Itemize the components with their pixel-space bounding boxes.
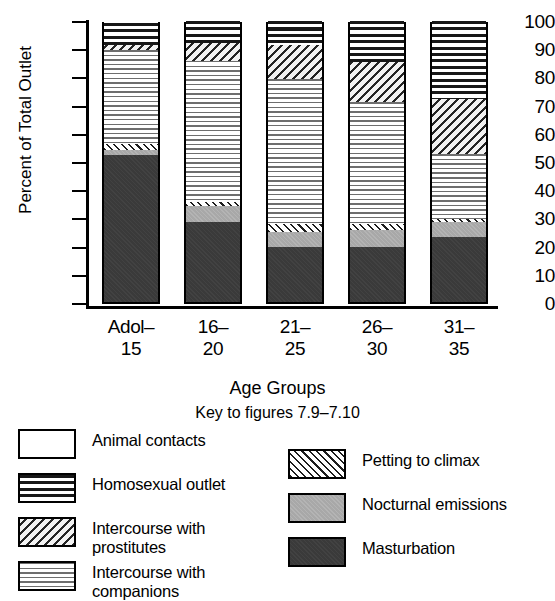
bar-segment-homosexual-outlet [186, 21, 240, 42]
plot-area [88, 22, 493, 304]
y-tick-label: 10 [491, 266, 555, 285]
y-tick-label: 70 [491, 97, 555, 116]
bar-adol-15[interactable] [102, 22, 160, 304]
bar-segment-petting-to-climax [104, 144, 158, 150]
bar-21-25[interactable] [266, 22, 324, 304]
legend-label-line: prostitutes [92, 538, 205, 557]
y-tick-mark [72, 218, 87, 220]
y-tick-mark [72, 134, 87, 136]
bar-segment-intercourse-prostitutes [432, 99, 486, 154]
bar-segment-intercourse-companions [432, 154, 486, 219]
legend-label-line: Nocturnal emissions [362, 495, 507, 514]
y-tick-label: 40 [491, 181, 555, 200]
bar-segment-petting-to-climax [268, 224, 322, 231]
bar-segment-masturbation [350, 247, 404, 302]
bar-segment-petting-to-climax [432, 219, 486, 222]
bar-segment-animal-contacts [268, 20, 322, 21]
legend-item-petting-to-climax[interactable]: Petting to climax [288, 448, 480, 479]
bar-segment-petting-to-climax [350, 224, 404, 230]
bar-26-30[interactable] [348, 22, 406, 304]
bar-segment-nocturnal-emissions [432, 222, 486, 238]
legend-label-line: Intercourse with [92, 563, 205, 582]
x-tick-label: 31–35 [411, 316, 507, 360]
y-tick-mark [72, 106, 87, 108]
bar-segment-intercourse-companions [186, 61, 240, 202]
bar-segment-intercourse-prostitutes [268, 45, 322, 79]
legend-label: Animal contacts [92, 428, 205, 450]
y-tick-label: 60 [491, 125, 555, 144]
bar-segment-petting-to-climax [186, 202, 240, 206]
y-tick-label: 30 [491, 209, 555, 228]
y-tick-mark [72, 49, 87, 51]
y-tick-mark [72, 190, 87, 192]
y-tick-label: 0 [491, 294, 555, 313]
legend: Animal contactsHomosexual outletIntercou… [0, 428, 555, 588]
key-title: Key to figures 7.9–7.10 [0, 404, 555, 422]
y-tick-mark [72, 21, 87, 23]
bar-segment-nocturnal-emissions [186, 206, 240, 222]
legend-label: Petting to climax [362, 448, 480, 470]
bar-segment-homosexual-outlet [268, 21, 322, 45]
bar-segment-intercourse-companions [104, 50, 158, 144]
bar-segment-animal-contacts [432, 20, 486, 21]
legend-label-line: Petting to climax [362, 451, 480, 470]
legend-item-intercourse-prostitutes[interactable]: Intercourse withprostitutes [18, 516, 205, 557]
legend-label-line: Intercourse with [92, 519, 205, 538]
x-axis-title: Age Groups [0, 378, 555, 399]
legend-label: Nocturnal emissions [362, 492, 507, 514]
legend-label-line: Homosexual outlet [92, 475, 225, 494]
legend-swatch-intercourse-companions [18, 561, 76, 591]
y-axis-title: Percent of Total Outlet [16, 0, 36, 260]
bar-segment-nocturnal-emissions [104, 150, 158, 156]
y-tick-label: 80 [491, 68, 555, 87]
bar-segment-masturbation [268, 247, 322, 302]
bar-segment-intercourse-prostitutes [104, 45, 158, 49]
legend-swatch-homosexual-outlet [18, 473, 76, 503]
bar-segment-intercourse-companions [350, 102, 404, 225]
legend-label: Homosexual outlet [92, 472, 225, 494]
legend-item-nocturnal-emissions[interactable]: Nocturnal emissions [288, 492, 507, 523]
legend-swatch-petting-to-climax [288, 449, 346, 479]
y-tick-mark [72, 77, 87, 79]
x-tick-label-line: 35 [411, 338, 507, 360]
bar-segment-nocturnal-emissions [268, 232, 322, 248]
bar-segment-animal-contacts [104, 20, 158, 23]
x-tick-label-line: 31– [411, 316, 507, 338]
legend-swatch-nocturnal-emissions [288, 493, 346, 523]
legend-item-intercourse-companions[interactable]: Intercourse withcompanions [18, 560, 205, 601]
bar-segment-masturbation [186, 222, 240, 302]
bar-segment-intercourse-prostitutes [186, 43, 240, 61]
bar-segment-homosexual-outlet [432, 21, 486, 99]
x-axis-line [86, 306, 498, 309]
legend-item-homosexual-outlet[interactable]: Homosexual outlet [18, 472, 225, 503]
legend-swatch-masturbation [288, 537, 346, 567]
y-tick-mark [72, 303, 87, 305]
y-tick-label: 20 [491, 238, 555, 257]
bar-segment-masturbation [432, 237, 486, 302]
legend-label: Intercourse withcompanions [92, 560, 205, 601]
legend-item-masturbation[interactable]: Masturbation [288, 536, 455, 567]
legend-label: Intercourse withprostitutes [92, 516, 205, 557]
bar-segment-nocturnal-emissions [350, 230, 404, 247]
bar-segment-homosexual-outlet [104, 23, 158, 46]
legend-label-line: Masturbation [362, 539, 455, 558]
bar-16-20[interactable] [184, 22, 242, 304]
y-tick-label: 50 [491, 153, 555, 172]
legend-swatch-intercourse-prostitutes [18, 517, 76, 547]
y-tick-label: 100 [491, 12, 555, 31]
legend-label: Masturbation [362, 536, 455, 558]
legend-label-line: Animal contacts [92, 431, 205, 450]
bar-segment-masturbation [104, 155, 158, 302]
bar-segment-intercourse-prostitutes [350, 62, 404, 101]
legend-item-animal-contacts[interactable]: Animal contacts [18, 428, 205, 459]
legend-swatch-animal-contacts [18, 429, 76, 459]
y-tick-mark [72, 275, 87, 277]
bar-31-35[interactable] [430, 22, 488, 304]
y-tick-mark [72, 162, 87, 164]
y-tick-label: 90 [491, 40, 555, 59]
bar-segment-intercourse-companions [268, 79, 322, 224]
bar-segment-animal-contacts [350, 20, 404, 21]
bar-segment-homosexual-outlet [350, 21, 404, 62]
y-tick-mark [72, 247, 87, 249]
